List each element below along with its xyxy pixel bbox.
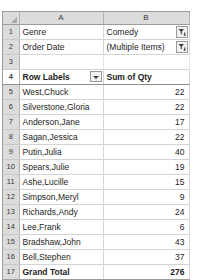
chevron-down-icon[interactable] [90,71,102,82]
row-header-11[interactable]: 11 [3,175,19,190]
row-header-16[interactable]: 16 [3,250,19,265]
table-row: 16 Bell,Stephen 37 [3,250,189,265]
cell-qty[interactable]: 37 [103,250,189,265]
cell-qty[interactable]: 43 [103,235,189,250]
row-header-7[interactable]: 7 [3,115,19,130]
cell-qty[interactable]: 15 [103,175,189,190]
table-row: 10 Spears,Julie 19 [3,160,189,175]
cell-qty[interactable]: 22 [103,130,189,145]
table-row: 6 Silverstone,Gloria 22 [3,100,189,115]
cell-qty[interactable]: 22 [103,85,189,100]
row-header-8[interactable]: 8 [3,130,19,145]
grand-total-label[interactable]: Grand Total [19,265,103,280]
cell-b2-orderdate-value[interactable]: (Multiple Items) [103,40,189,55]
table-row: 7 Anderson,Jane 17 [3,115,189,130]
cell-a1-genre-label[interactable]: Genre [19,25,103,40]
cell-label[interactable]: Spears,Julie [19,160,103,175]
row-header-9[interactable]: 9 [3,145,19,160]
table-row: 8 Sagan,Jessica 22 [3,130,189,145]
table-row: 5 West,Chuck 22 [3,85,189,100]
cell-qty[interactable]: 40 [103,145,189,160]
filter-funnel-icon[interactable] [176,26,188,38]
cropped-text-artifact: ... [0,0,197,11]
table-row: 2 Order Date (Multiple Items) [3,40,189,55]
row-header-15[interactable]: 15 [3,235,19,250]
cell-qty[interactable]: 22 [103,100,189,115]
cell-b1-text: Comedy [107,27,139,37]
cell-label[interactable]: Bell,Stephen [19,250,103,265]
table-row: 15 Bradshaw,John 43 [3,235,189,250]
column-header-row: A B [3,12,189,25]
cell-qty[interactable]: 19 [103,160,189,175]
grand-total-value[interactable]: 276 [103,265,189,280]
row-header-3[interactable]: 3 [3,55,19,70]
table-row: 11 Ashe,Lucille 15 [3,175,189,190]
cell-label[interactable]: Putin,Julia [19,145,103,160]
row-header-12[interactable]: 12 [3,190,19,205]
cell-label[interactable]: Anderson,Jane [19,115,103,130]
cell-label[interactable]: Lee,Frank [19,220,103,235]
cell-label[interactable]: Sagan,Jessica [19,130,103,145]
pivot-header-row: 4 Row Labels Sum of Qty [3,70,189,85]
cell-b1-genre-value[interactable]: Comedy [103,25,189,40]
cell-label[interactable]: Simpson,Meryl [19,190,103,205]
row-header-2[interactable]: 2 [3,40,19,55]
cell-label[interactable]: Bradshaw,John [19,235,103,250]
cell-a3-empty[interactable] [19,55,103,70]
row-header-5[interactable]: 5 [3,85,19,100]
row-header-14[interactable]: 14 [3,220,19,235]
column-header-b[interactable]: B [103,12,189,25]
table-row: 12 Simpson,Meryl 9 [3,190,189,205]
filter-funnel-icon[interactable] [176,41,188,53]
row-header-1[interactable]: 1 [3,25,19,40]
column-header-a[interactable]: A [19,12,103,25]
table-row: 1 Genre Comedy [3,25,189,40]
chevron-down-glyph [93,76,99,79]
cell-b3-empty[interactable] [103,55,189,70]
row-labels-text: Row Labels [23,72,70,82]
row-labels-header[interactable]: Row Labels [19,70,103,85]
cell-a2-orderdate-label[interactable]: Order Date [19,40,103,55]
value-column-header[interactable]: Sum of Qty [103,70,189,85]
row-header-4[interactable]: 4 [3,70,19,85]
row-header-10[interactable]: 10 [3,160,19,175]
table-row: 14 Lee,Frank 6 [3,220,189,235]
select-all-corner-button[interactable] [3,12,19,25]
select-all-triangle-icon [11,17,17,23]
pivot-table: A B 1 Genre Comedy [3,12,190,279]
cell-qty[interactable]: 9 [103,190,189,205]
table-row: 3 [3,55,189,70]
table-row: 9 Putin,Julia 40 [3,145,189,160]
worksheet-grid: A B 1 Genre Comedy [2,11,190,280]
row-header-17[interactable]: 17 [3,265,19,280]
cell-qty[interactable]: 17 [103,115,189,130]
table-row: 13 Richards,Andy 24 [3,205,189,220]
cell-b2-text: (Multiple Items) [107,42,165,52]
row-header-13[interactable]: 13 [3,205,19,220]
cell-label[interactable]: Ashe,Lucille [19,175,103,190]
cell-label[interactable]: Richards,Andy [19,205,103,220]
cell-qty[interactable]: 24 [103,205,189,220]
cell-label[interactable]: Silverstone,Gloria [19,100,103,115]
cell-label[interactable]: West,Chuck [19,85,103,100]
row-header-6[interactable]: 6 [3,100,19,115]
cell-qty[interactable]: 6 [103,220,189,235]
grand-total-row: 17 Grand Total 276 [3,265,189,280]
